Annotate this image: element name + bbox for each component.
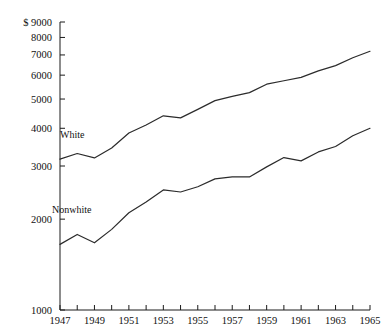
x-tick-label-1953: 1953 xyxy=(153,315,174,326)
series-inline-labels: WhiteNonwhite xyxy=(52,129,92,215)
series-label-nonwhite: Nonwhite xyxy=(52,204,92,215)
series-label-white: White xyxy=(60,129,85,140)
y-axis-tick-labels: $ 900080007000600050004000300020001000 xyxy=(23,17,52,316)
y-tick-label-4000: 4000 xyxy=(31,123,52,134)
x-axis-ticks xyxy=(60,305,370,310)
chart-container: $ 900080007000600050004000300020001000 1… xyxy=(0,0,390,328)
series-line-nonwhite xyxy=(60,128,370,244)
y-tick-label-8000: 8000 xyxy=(31,32,52,43)
y-axis-ticks xyxy=(60,22,65,310)
x-tick-label-1947: 1947 xyxy=(50,315,71,326)
x-axis: 1947194919511953195519571959196119631965 xyxy=(50,305,381,326)
y-tick-label-1000: 1000 xyxy=(31,305,52,316)
data-series-group xyxy=(60,51,370,244)
x-axis-tick-labels: 1947194919511953195519571959196119631965 xyxy=(50,315,381,326)
y-axis: $ 900080007000600050004000300020001000 xyxy=(23,17,65,316)
x-tick-label-1949: 1949 xyxy=(84,315,105,326)
y-tick-label-7000: 7000 xyxy=(31,49,52,60)
x-tick-label-1951: 1951 xyxy=(118,315,139,326)
x-tick-label-1963: 1963 xyxy=(325,315,346,326)
x-tick-label-1965: 1965 xyxy=(360,315,381,326)
y-tick-label-3000: 3000 xyxy=(31,161,52,172)
x-tick-label-1957: 1957 xyxy=(222,315,243,326)
income-by-race-line-chart: $ 900080007000600050004000300020001000 1… xyxy=(0,0,390,328)
y-tick-label-9000: $ 9000 xyxy=(23,17,52,28)
x-tick-label-1959: 1959 xyxy=(256,315,277,326)
y-tick-label-2000: 2000 xyxy=(31,214,52,225)
y-tick-label-5000: 5000 xyxy=(31,94,52,105)
x-tick-label-1961: 1961 xyxy=(291,315,312,326)
y-tick-label-6000: 6000 xyxy=(31,70,52,81)
series-line-white xyxy=(60,51,370,159)
x-tick-label-1955: 1955 xyxy=(187,315,208,326)
